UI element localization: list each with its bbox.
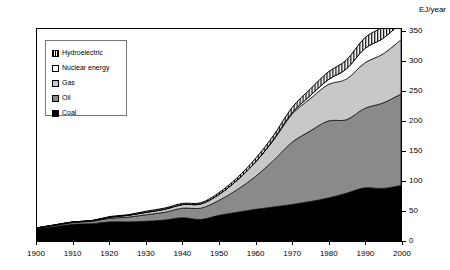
legend-item-label: Gas — [62, 79, 75, 87]
y-tick-mark — [402, 211, 406, 212]
y-tick-label: 300 — [409, 57, 422, 65]
legend-item-nuclear-energy[interactable]: Nuclear energy — [52, 61, 126, 75]
y-tick-label: 250 — [409, 87, 422, 95]
legend-item-label: Nuclear energy — [62, 64, 109, 72]
light-gray-square-icon — [52, 80, 59, 87]
y-axis-unit-label: EJ/year — [419, 5, 446, 14]
legend-item-label: Hydroelectric — [62, 49, 103, 57]
legend-item-hydroelectric[interactable]: Hydroelectric — [52, 46, 126, 60]
x-tick-mark — [219, 241, 220, 245]
x-tick-label: 1980 — [320, 249, 338, 258]
x-tick-mark — [109, 241, 110, 245]
y-tick-label: 100 — [409, 177, 422, 185]
y-tick-mark — [402, 181, 406, 182]
x-tick-mark — [182, 241, 183, 245]
x-tick-mark — [402, 241, 403, 245]
legend-item-oil[interactable]: Oil — [52, 91, 126, 105]
x-tick-label: 1910 — [64, 249, 82, 258]
x-tick-label: 1920 — [100, 249, 118, 258]
y-tick-mark — [402, 121, 406, 122]
hatched-square-icon — [52, 50, 59, 57]
y-tick-label: 150 — [409, 147, 422, 155]
black-square-icon — [52, 110, 59, 117]
x-tick-mark — [146, 241, 147, 245]
x-tick-label: 2000 — [393, 249, 411, 258]
y-tick-label: 0 — [409, 237, 413, 245]
x-tick-mark — [36, 241, 37, 245]
y-tick-label: 50 — [409, 207, 418, 215]
y-tick-mark — [402, 61, 406, 62]
x-tick-label: 1950 — [210, 249, 228, 258]
legend-item-label: Oil — [62, 94, 71, 102]
x-tick-label: 1930 — [137, 249, 155, 258]
x-tick-label: 1900 — [27, 249, 45, 258]
x-tick-label: 1970 — [283, 249, 301, 258]
y-tick-mark — [402, 91, 406, 92]
legend-item-coal[interactable]: Coal — [52, 106, 126, 120]
legend-item-label: Coal — [62, 109, 76, 117]
x-tick-mark — [292, 241, 293, 245]
y-tick-label: 350 — [409, 27, 422, 35]
chart-legend: HydroelectricNuclear energyGasOilCoal — [45, 40, 127, 116]
white-square-icon — [52, 65, 59, 72]
y-tick-mark — [402, 31, 406, 32]
y-tick-mark — [402, 151, 406, 152]
x-tick-mark — [256, 241, 257, 245]
chart-container: EJ/year 050100150200250300350 1900191019… — [0, 0, 450, 270]
x-tick-mark — [73, 241, 74, 245]
x-tick-mark — [365, 241, 366, 245]
x-tick-label: 1940 — [173, 249, 191, 258]
x-tick-mark — [329, 241, 330, 245]
x-tick-label: 1990 — [356, 249, 374, 258]
dark-gray-square-icon — [52, 95, 59, 102]
legend-item-gas[interactable]: Gas — [52, 76, 126, 90]
x-tick-label: 1960 — [247, 249, 265, 258]
y-tick-label: 200 — [409, 117, 422, 125]
